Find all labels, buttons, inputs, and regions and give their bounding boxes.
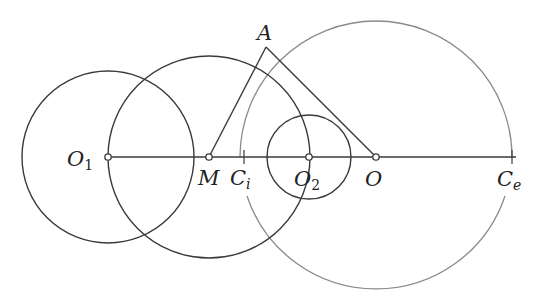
label-A: A [255,21,272,45]
point-M [206,154,212,160]
circle-O [240,21,512,157]
label-Ce: Ce [497,167,521,193]
geometry-diagram: A O1 M Ci O2 O Ce [0,0,542,299]
label-O1: O1 [67,147,93,173]
segment-MA [209,47,266,157]
point-O1 [105,154,111,160]
label-M: M [197,166,220,190]
label-O2: O2 [294,167,320,193]
segment-AO [266,47,376,157]
label-O: O [365,167,382,191]
circle-O-lower [247,196,505,289]
point-O2 [306,154,312,160]
point-O [373,154,379,160]
label-Ci: Ci [230,166,251,192]
diagram-canvas: A O1 M Ci O2 O Ce [0,0,542,299]
